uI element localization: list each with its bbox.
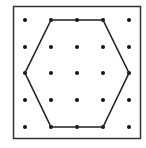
grid-dot xyxy=(127,18,131,22)
grid-dot xyxy=(49,71,53,75)
grid-dot xyxy=(101,45,105,49)
grid-dot xyxy=(49,98,53,102)
grid-dot xyxy=(75,45,79,49)
grid-dot xyxy=(23,18,27,22)
grid-dot xyxy=(49,45,53,49)
grid-dot xyxy=(101,71,105,75)
grid-dot xyxy=(101,98,105,102)
grid-dot xyxy=(75,71,79,75)
grid-dot xyxy=(127,98,131,102)
grid-dot xyxy=(75,98,79,102)
dot-grid-hexagon-diagram xyxy=(0,0,146,148)
grid-dot xyxy=(127,125,131,129)
grid-dot xyxy=(127,45,131,49)
grid-dot xyxy=(23,98,27,102)
dot-grid xyxy=(23,18,131,129)
grid-dot xyxy=(23,45,27,49)
grid-dot xyxy=(23,125,27,129)
